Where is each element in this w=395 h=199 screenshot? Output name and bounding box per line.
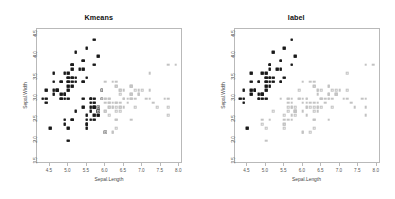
data-point (167, 64, 170, 67)
data-point (97, 114, 100, 117)
data-point (268, 68, 271, 71)
data-point (111, 106, 114, 109)
panel-title-label: label (198, 13, 395, 22)
data-point (302, 110, 305, 113)
x-axis-tick (86, 163, 87, 166)
data-point (283, 118, 286, 121)
data-point (93, 64, 96, 67)
data-point (126, 102, 129, 105)
data-point (89, 110, 92, 113)
data-point (276, 68, 279, 71)
data-point (265, 140, 268, 143)
data-point (302, 97, 305, 100)
data-point (346, 97, 349, 100)
x-axis-tick (67, 163, 68, 166)
data-point (89, 118, 92, 121)
data-point (67, 76, 70, 79)
data-point (287, 97, 290, 100)
data-point (272, 76, 275, 79)
data-point (261, 118, 264, 121)
data-point (97, 55, 100, 58)
x-axis-title-label: Sepal.Length (292, 177, 321, 182)
data-point (137, 93, 140, 96)
data-point (346, 72, 349, 75)
x-axis-tick-label: 7.0 (336, 168, 342, 173)
data-point (93, 106, 96, 109)
data-point (123, 89, 126, 92)
data-point (49, 127, 52, 130)
x-axis-tick-label: 5.5 (83, 168, 89, 173)
data-point (309, 106, 312, 109)
data-point (272, 80, 275, 83)
data-point (163, 97, 166, 100)
x-axis-tick-label: 7.0 (138, 168, 144, 173)
data-point (316, 102, 319, 105)
data-point (320, 89, 323, 92)
x-axis-tick-label: 7.5 (354, 168, 360, 173)
data-point (279, 59, 282, 62)
data-point (67, 72, 70, 75)
data-point (93, 118, 96, 121)
data-point (283, 76, 286, 79)
data-point (93, 114, 96, 117)
data-point (137, 89, 140, 92)
y-axis-tick-label: 4.0 (230, 50, 235, 60)
data-point (298, 89, 301, 92)
data-point (82, 80, 85, 83)
data-point (335, 89, 338, 92)
data-point (123, 106, 126, 109)
data-point (63, 123, 66, 126)
data-point (174, 64, 177, 67)
x-axis-tick-label: 7.5 (157, 168, 163, 173)
data-point (75, 76, 78, 79)
data-point (111, 131, 114, 134)
data-point (108, 114, 111, 117)
data-point (52, 89, 55, 92)
data-point (320, 97, 323, 100)
x-axis-tick-label: 5.0 (64, 168, 70, 173)
y-axis-title-label: Sepal.Width (220, 72, 225, 118)
data-point (327, 85, 330, 88)
data-point (290, 64, 293, 67)
data-point (108, 102, 111, 105)
panel-label: label 4.55.05.56.06.57.07.58.01.52.02.53… (198, 0, 395, 199)
data-point (353, 106, 356, 109)
data-point (86, 76, 89, 79)
data-point (167, 114, 170, 117)
x-axis-tick (141, 163, 142, 166)
data-point (294, 110, 297, 113)
data-point (104, 102, 107, 105)
panel-kmeans: Kmeans 4.55.05.56.06.57.07.58.01.52.02.5… (0, 0, 198, 199)
scatter-plot-figure: Kmeans 4.55.05.56.06.57.07.58.01.52.02.5… (0, 0, 395, 199)
data-point (148, 89, 151, 92)
data-point (134, 89, 137, 92)
data-point (89, 106, 92, 109)
data-point (316, 110, 319, 113)
data-point (67, 80, 70, 83)
data-point (261, 123, 264, 126)
x-axis-tick (178, 163, 179, 166)
data-point (305, 97, 308, 100)
data-point (327, 97, 330, 100)
y-axis-tick-label: 1.5 (33, 155, 38, 165)
data-point (250, 72, 253, 75)
data-point (242, 97, 245, 100)
data-point (287, 110, 290, 113)
data-point (71, 76, 74, 79)
data-point (239, 97, 242, 100)
data-point (104, 110, 107, 113)
data-point (115, 118, 118, 121)
data-point (265, 85, 268, 88)
data-point (82, 68, 85, 71)
data-point (272, 51, 275, 54)
data-point (246, 127, 249, 130)
data-point (130, 93, 133, 96)
data-point (86, 118, 89, 121)
data-point (320, 106, 323, 109)
data-point (305, 106, 308, 109)
plot-area-label (234, 28, 380, 163)
data-point (119, 102, 122, 105)
data-point (63, 118, 66, 121)
data-point (82, 59, 85, 62)
data-point (71, 80, 74, 83)
